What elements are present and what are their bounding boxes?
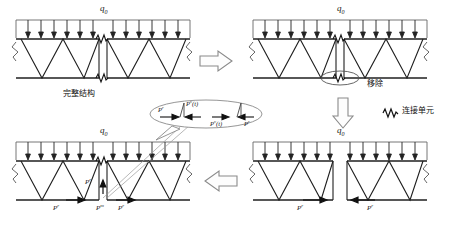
load-distribution-top-right [253,20,427,38]
truss-top-left [12,39,192,78]
load-distribution-top-left [16,20,190,38]
force-label-vertical: Pr [85,177,91,186]
connection-element-legend: 连接单元 [382,106,400,118]
load-label-bottom-left: q0 [100,126,108,137]
bubble-label-1: Pr [158,106,164,114]
load-label-top-right: q0 [337,4,345,15]
panel-complete-structure: q0 完整结构 [8,8,198,88]
force-label-right: Pr [118,203,124,212]
truss-top-right [249,39,429,78]
force-label-mid: Pm [96,203,104,212]
load-distribution-bottom-left [16,142,190,160]
spring-zigzag-icon [382,106,400,118]
flow-arrow-left [203,168,243,194]
truss-segment-left [249,161,333,200]
legend-label: 连接单元 [402,107,434,115]
caption-complete-structure: 完整结构 [63,90,95,98]
panel-separated-substructures: q0 Pr Pr [245,132,435,214]
truss-segment-right [347,161,429,200]
force-label-segment-left: Pr [297,203,303,212]
force-arrows-bottom-right [303,197,375,203]
callout-removal: 移除 [367,80,383,88]
figure-root: q0 完整结构 [0,0,461,226]
load-distribution-bottom-right [253,142,427,160]
force-detail-callout: Pr Pv(t) Pv(t) Pr [148,96,268,136]
truss-bottom-left [12,161,192,200]
panel-element-removal: q0 移除 [245,8,435,88]
bubble-label-3: Pv(t) [210,120,222,128]
panel-reassembled-with-forces: q0 Pr Pm Pr Pr [8,132,198,214]
flow-arrow-down [330,96,356,130]
flow-arrow-right [198,48,238,74]
bubble-label-4: Pr [244,120,250,128]
bubble-label-2: Pv(t) [186,100,198,108]
load-label-top-left: q0 [100,4,108,15]
force-label-segment-right: Pr [367,203,373,212]
force-label-left: Pr [53,203,59,212]
